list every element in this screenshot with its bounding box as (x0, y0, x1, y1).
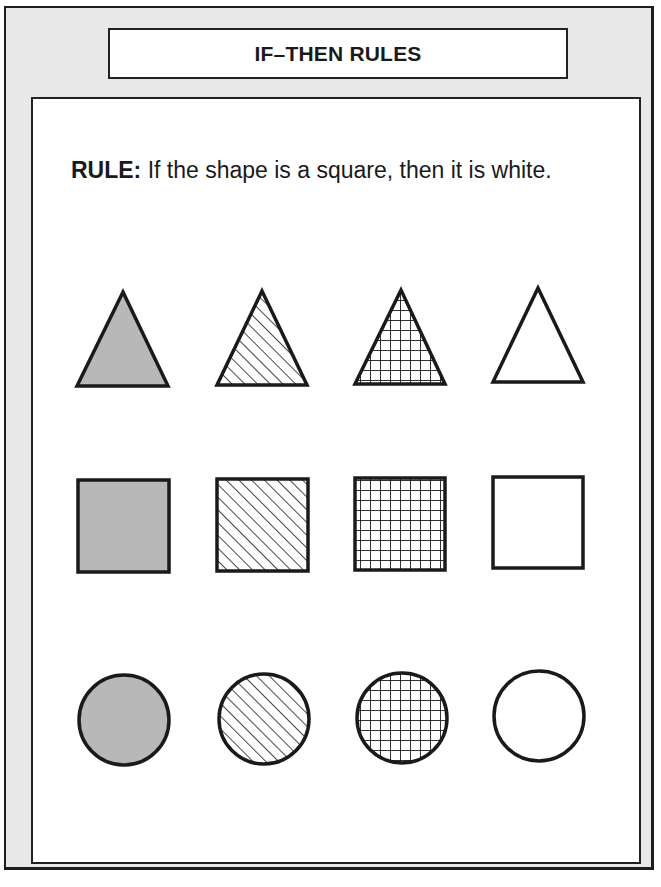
circle-gray (79, 675, 169, 765)
triangle-gray (77, 292, 168, 386)
shapes-grid (0, 0, 661, 887)
square-gray (78, 480, 169, 572)
square-white (493, 477, 583, 568)
triangle-crosshatch (355, 290, 445, 384)
circle-diagonal-hatch (219, 674, 309, 764)
row-triangles (77, 288, 583, 386)
square-crosshatch (355, 478, 445, 570)
row-squares (78, 477, 583, 572)
row-circles (79, 671, 584, 765)
square-diagonal-hatch (217, 479, 308, 571)
triangle-white (493, 288, 583, 382)
circle-white (494, 671, 584, 761)
circle-crosshatch (357, 673, 447, 763)
triangle-diagonal-hatch (217, 291, 307, 385)
